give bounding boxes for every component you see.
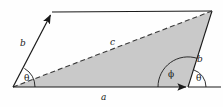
label-vector-a: a [101, 93, 106, 102]
label-vector-b-left: b [20, 39, 26, 48]
label-vector-c: c [110, 38, 115, 47]
diagram-canvas [0, 0, 223, 107]
label-angle-theta-left: θ [24, 74, 29, 83]
label-angle-phi: ϕ [168, 70, 174, 79]
label-angle-theta-right: θ [196, 74, 201, 83]
vector-diagram-figure: b b c a θ θ ϕ [0, 0, 223, 107]
label-vector-b-right: b [197, 55, 203, 64]
top-edge-line [52, 11, 212, 12]
